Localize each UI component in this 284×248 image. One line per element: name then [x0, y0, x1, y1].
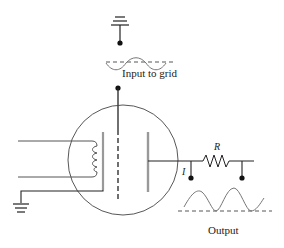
grid-ground-terminal: [117, 40, 122, 45]
output-terminal-left: [188, 175, 193, 180]
output-terminal-right: [239, 175, 244, 180]
current-label: I: [182, 166, 185, 177]
triode-diagram: [0, 0, 284, 248]
output-label: Output: [208, 224, 239, 236]
input-label: Input to grid: [122, 67, 177, 79]
output-wave: [184, 188, 264, 211]
heater: [18, 141, 97, 177]
resistor-icon: [203, 155, 254, 167]
resistor-label: R: [214, 141, 220, 152]
tube-envelope: [68, 105, 178, 215]
grid-ground-icon: [111, 17, 129, 42]
cathode-ground-wire: [21, 190, 103, 203]
cathode-ground-icon: [13, 204, 29, 212]
